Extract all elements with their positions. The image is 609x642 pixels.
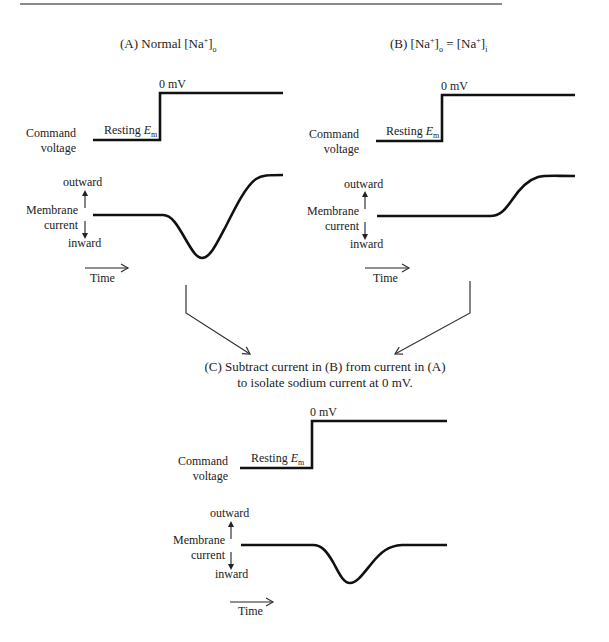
panel-b-inward-label: inward — [350, 237, 383, 252]
panel-b-command-label: Commandvoltage — [303, 127, 359, 157]
panel-b-current-trace — [377, 176, 575, 216]
panel-a-title: (A) Normal [Na+]o — [120, 36, 217, 54]
panel-c-0mv-label: 0 mV — [310, 405, 337, 420]
panel-a-resting-em-label: Resting Em — [104, 123, 157, 139]
panel-b-title: (B) [Na+]o = [Na+]i — [390, 36, 487, 54]
panel-a-0mv-label: 0 mV — [159, 77, 186, 92]
panel-a-command-label: Commandvoltage — [20, 126, 76, 156]
panel-c-membrane-current-label: Membranecurrent — [167, 533, 225, 563]
panel-c-current-trace — [241, 545, 447, 583]
panel-a-time-label: Time — [90, 271, 115, 286]
panel-b-0mv-label: 0 mV — [441, 79, 468, 94]
panel-a-outward-label: outward — [63, 175, 102, 190]
arrow-a-to-c — [186, 285, 250, 354]
panel-a-current-trace — [93, 175, 283, 258]
panel-a-inward-label: inward — [68, 236, 101, 251]
panel-b-membrane-current-label: Membranecurrent — [300, 204, 359, 234]
panel-b-outward-label: outward — [344, 177, 383, 192]
panel-c-time-label: Time — [238, 604, 263, 619]
panel-c-outward-label: outward — [210, 506, 249, 521]
panel-b-time-label: Time — [373, 271, 398, 286]
panel-a-membrane-current-label: Membranecurrent — [20, 203, 78, 233]
panel-c-resting-em-label: Resting Em — [251, 451, 304, 467]
panel-c-command-label: Commandvoltage — [170, 454, 228, 484]
arrow-b-to-c — [395, 281, 470, 354]
panel-c-inward-label: inward — [215, 567, 248, 582]
diagram-canvas — [0, 0, 609, 642]
panel-b-resting-em-label: Resting Em — [386, 124, 439, 140]
panel-c-caption: (C) Subtract current in (B) from current… — [140, 359, 510, 391]
